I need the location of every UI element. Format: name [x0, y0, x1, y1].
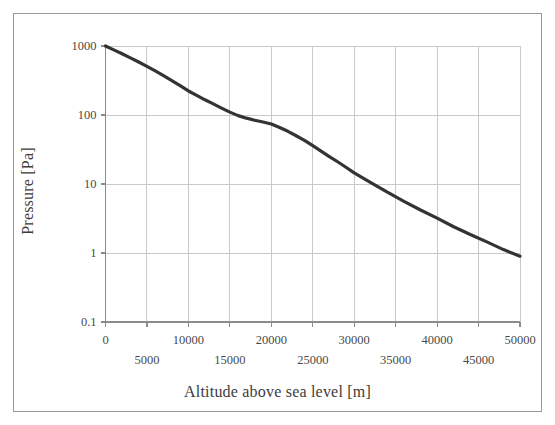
x-tick-label: 10000 — [173, 334, 204, 347]
y-tick-label: 0.1 — [81, 316, 97, 329]
x-tick-label: 40000 — [421, 334, 452, 347]
x-tick-label: 20000 — [256, 334, 287, 347]
y-axis-title: Pressure [Pa] — [19, 91, 37, 291]
y-tick-label: 100 — [78, 109, 97, 122]
chart-figure: 0.11101001000 05000100001500020000250003… — [0, 0, 555, 425]
gridlines — [106, 46, 521, 322]
x-tick-label: 0 — [102, 334, 108, 347]
y-tick-label: 1 — [90, 247, 96, 260]
x-axis-title: Altitude above sea level [m] — [0, 383, 555, 401]
x-tick-label: 50000 — [504, 334, 535, 347]
x-tick-label: 45000 — [463, 354, 494, 367]
x-tick-label: 25000 — [297, 354, 328, 367]
tick-marks — [101, 46, 521, 327]
y-tick-label: 10 — [84, 178, 97, 191]
x-tick-label: 5000 — [134, 354, 159, 367]
y-tick-label: 1000 — [72, 40, 97, 53]
x-tick-label: 35000 — [380, 354, 411, 367]
x-tick-label: 15000 — [214, 354, 245, 367]
x-tick-label: 30000 — [339, 334, 370, 347]
